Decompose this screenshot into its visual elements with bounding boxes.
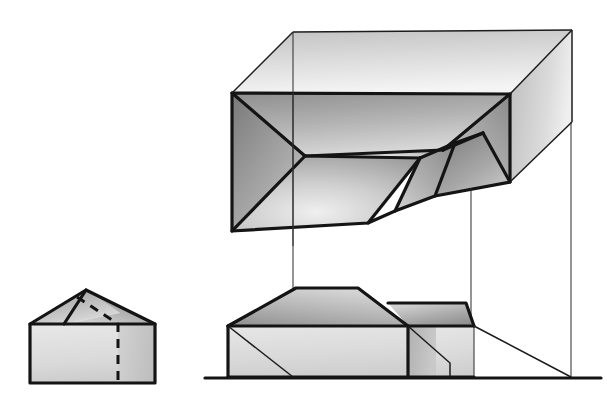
roof-geometry-figure: [0, 0, 607, 403]
gable-reference-solid: [30, 290, 155, 383]
elevation-wing-wall-light: [436, 326, 474, 377]
elevation-wing-wall-dark: [408, 326, 436, 377]
front-elevation: [205, 288, 601, 378]
technical-drawing-canvas: [0, 0, 607, 403]
isometric-hipped-roof: [232, 30, 572, 246]
elevation-main-wall: [228, 326, 408, 377]
gable-front-wall: [30, 324, 118, 383]
elevation-diagonal-right: [474, 326, 571, 377]
gable-side-wall: [118, 324, 155, 383]
